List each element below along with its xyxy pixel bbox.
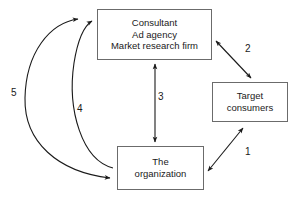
node-target-consumers: Target consumers <box>212 82 288 122</box>
edge-1-label: 1 <box>245 147 251 157</box>
node-target-consumers-line-1: Target <box>237 90 263 102</box>
diagram-canvas: Consultant Ad agency Market research fir… <box>0 0 301 197</box>
node-organization-line-1: The <box>152 156 168 168</box>
edge-4-label: 4 <box>77 104 83 114</box>
node-consultant: Consultant Ad agency Market research fir… <box>97 9 212 60</box>
node-organization: The organization <box>117 146 204 190</box>
node-consultant-line-1: Consultant <box>132 17 177 29</box>
edge-5-label: 5 <box>11 88 17 98</box>
edge-1-arrow <box>208 128 243 171</box>
node-organization-line-2: organization <box>135 168 187 180</box>
node-target-consumers-line-2: consumers <box>227 102 273 114</box>
edge-3-label: 3 <box>158 92 164 102</box>
node-consultant-line-3: Market research firm <box>111 40 198 52</box>
node-consultant-line-2: Ad agency <box>132 29 177 41</box>
edge-2-label: 2 <box>245 44 251 54</box>
